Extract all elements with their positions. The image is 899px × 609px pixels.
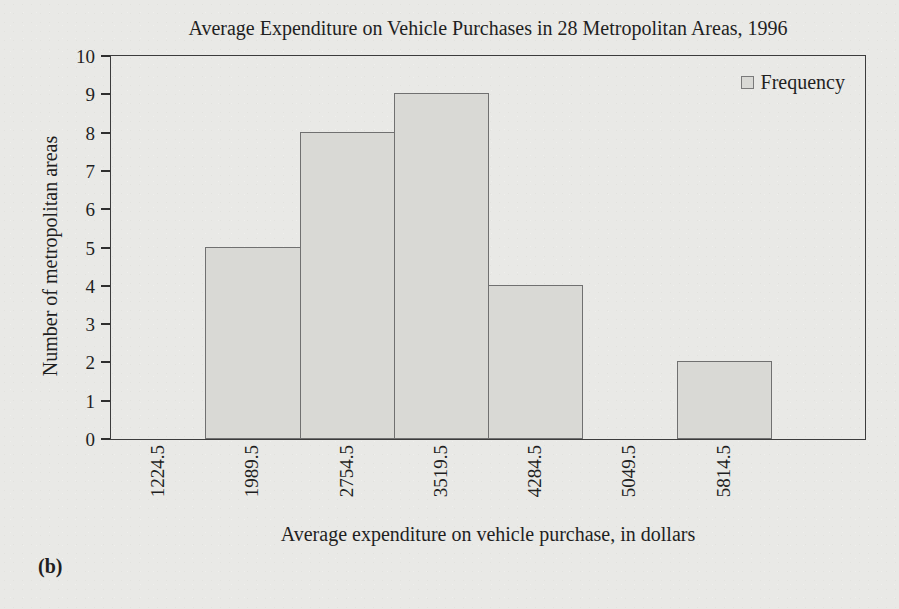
figure-label: (b) xyxy=(38,555,62,578)
y-tick-label-8: 8 xyxy=(86,123,96,142)
bar-midpoint-1989.5 xyxy=(205,247,300,440)
legend: Frequency xyxy=(741,72,845,92)
y-tick-label-5: 5 xyxy=(86,238,96,257)
y-tick-mark-7 xyxy=(101,170,110,172)
y-tick-mark-2 xyxy=(101,361,110,363)
x-axis-tick-labels: 1224.51989.52754.53519.54284.55049.55814… xyxy=(110,440,866,506)
y-tick-mark-10 xyxy=(101,55,110,57)
y-tick-label-3: 3 xyxy=(86,315,96,334)
y-tick-label-10: 10 xyxy=(76,47,95,66)
x-axis-title: Average expenditure on vehicle purchase,… xyxy=(110,523,866,546)
y-tick-mark-4 xyxy=(101,285,110,287)
y-tick-label-9: 9 xyxy=(86,85,96,104)
y-tick-mark-9 xyxy=(101,93,110,95)
y-tick-mark-1 xyxy=(101,400,110,402)
x-tick-label-5049.5: 5049.5 xyxy=(619,445,638,497)
x-tick-label-1224.5: 1224.5 xyxy=(148,445,167,497)
y-tick-mark-0 xyxy=(101,438,110,440)
bar-midpoint-2754.5 xyxy=(300,132,395,439)
y-tick-mark-5 xyxy=(101,247,110,249)
x-tick-label-1989.5: 1989.5 xyxy=(242,445,261,497)
y-tick-label-0: 0 xyxy=(86,430,96,449)
y-axis-title: Number of metropolitan areas xyxy=(39,136,62,376)
y-tick-label-4: 4 xyxy=(86,276,96,295)
x-tick-label-4284.5: 4284.5 xyxy=(525,445,544,497)
bar-midpoint-4284.5 xyxy=(488,285,583,439)
y-tick-mark-3 xyxy=(101,323,110,325)
histogram-figure: Average Expenditure on Vehicle Purchases… xyxy=(0,0,899,609)
legend-frequency-swatch-icon xyxy=(741,76,754,89)
y-tick-label-1: 1 xyxy=(86,391,96,410)
x-tick-label-5814.5: 5814.5 xyxy=(713,445,732,497)
x-tick-label-3519.5: 3519.5 xyxy=(430,445,449,497)
y-tick-mark-8 xyxy=(101,132,110,134)
y-tick-label-2: 2 xyxy=(86,353,96,372)
x-tick-label-2754.5: 2754.5 xyxy=(336,445,355,497)
y-tick-mark-6 xyxy=(101,208,110,210)
plot-area: Frequency 012345678910 xyxy=(110,55,866,440)
y-tick-label-7: 7 xyxy=(86,161,96,180)
bar-midpoint-3519.5 xyxy=(394,93,489,439)
y-tick-label-6: 6 xyxy=(86,200,96,219)
chart-title: Average Expenditure on Vehicle Purchases… xyxy=(110,17,866,40)
legend-frequency-label: Frequency xyxy=(761,72,845,92)
bar-midpoint-5814.5 xyxy=(677,361,772,439)
